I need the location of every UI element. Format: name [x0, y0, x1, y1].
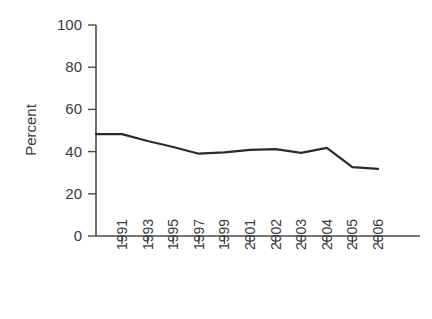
x-tick-label: 1993	[140, 219, 156, 250]
x-tick-label: 2003	[293, 219, 309, 250]
x-tick-label: 2002	[268, 219, 284, 250]
y-tick-label: 40	[65, 143, 82, 160]
x-tick-label: 2004	[319, 219, 335, 250]
y-axis-title: Percent	[22, 103, 39, 156]
y-tick-label: 0	[74, 227, 82, 244]
x-tick-label: 1991	[114, 219, 130, 250]
x-tick-label: 2005	[344, 219, 360, 250]
line-chart-canvas: 0204060801001991199319951997199920012002…	[0, 0, 432, 319]
x-tick-label: 1997	[191, 219, 207, 250]
y-tick-label: 60	[65, 100, 82, 117]
chart-figure: 0204060801001991199319951997199920012002…	[0, 0, 432, 319]
x-tick-label: 1999	[216, 219, 232, 250]
y-tick-label: 80	[65, 58, 82, 75]
x-tick-label: 2006	[370, 219, 386, 250]
y-tick-label: 100	[57, 16, 82, 33]
data-series-line	[96, 134, 378, 169]
y-tick-label: 20	[65, 185, 82, 202]
x-tick-label: 1995	[165, 219, 181, 250]
x-tick-label: 2001	[242, 219, 258, 250]
